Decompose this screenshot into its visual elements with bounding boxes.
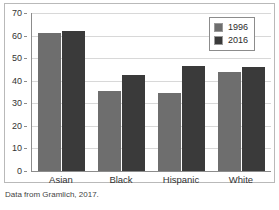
bar-group [98,13,145,171]
legend-item: 2016 [214,34,248,47]
figure: 010203040506070 AsianBlackHispanicWhite … [0,0,279,210]
bar [182,66,205,171]
x-axis-category-label: Hispanic [151,175,211,185]
legend-swatch-icon [214,36,223,45]
bar [242,67,265,171]
bar [38,33,61,171]
x-axis-category-label: White [211,175,271,185]
y-axis-tick-mark [24,36,27,37]
y-axis-tick-mark [24,126,27,127]
x-axis-category-label: Asian [31,175,91,185]
y-axis-tick-label: 60 [12,32,22,41]
y-axis-tick-label: 70 [12,9,22,18]
y-axis-tick-label: 10 [12,144,22,153]
legend-item: 1996 [214,21,248,34]
x-axis-line [31,171,271,172]
y-axis-tick-label: 20 [12,122,22,131]
bar [158,93,181,171]
chart-legend: 19962016 [209,17,255,51]
chart-frame: 010203040506070 AsianBlackHispanicWhite … [4,3,275,183]
y-axis-tick-mark [24,13,27,14]
bar-group [158,13,205,171]
legend-item-label: 2016 [228,36,248,45]
y-axis-tick-label: 30 [12,99,22,108]
source-caption: Data from Gramlich, 2017. [5,190,99,199]
y-axis-tick-label: 0 [17,167,22,176]
x-axis-category-label: Black [91,175,151,185]
y-axis-ticks: 010203040506070 [5,13,27,172]
bar-group [38,13,85,171]
bar [98,91,121,171]
bar [62,31,85,171]
y-axis-tick-mark [24,103,27,104]
y-axis-tick-label: 40 [12,77,22,86]
bar [122,75,145,171]
bar [218,72,241,171]
legend-swatch-icon [214,23,223,32]
y-axis-tick-mark [24,148,27,149]
y-axis-line [31,13,32,172]
y-axis-tick-label: 50 [12,54,22,63]
y-axis-tick-mark [24,81,27,82]
y-axis-tick-mark [24,58,27,59]
y-axis-tick-mark [24,171,27,172]
legend-item-label: 1996 [228,23,248,32]
